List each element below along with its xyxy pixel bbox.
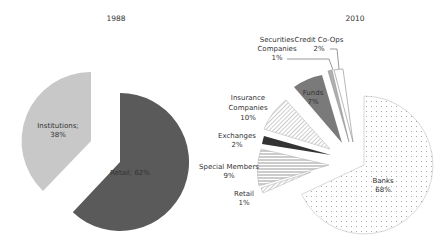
label-2010-insurance-2: Companies: [228, 104, 267, 112]
chart-1988-title: 1988: [106, 14, 125, 23]
label-2010-exchanges-2: 2%: [231, 141, 242, 149]
label-2010-funds-1: Funds: [303, 89, 324, 97]
label-2010-retail-1: Retail: [234, 190, 254, 198]
label-2010-banks-1: Banks: [372, 177, 394, 185]
chart-2010-title: 2010: [345, 14, 364, 23]
label-2010-special-1: Special Members: [199, 163, 259, 171]
label-1988-institutions-2: 38%: [50, 131, 66, 139]
label-2010-insurance-1: Insurance: [231, 94, 265, 102]
label-1988-institutions-1: Institutions;: [37, 122, 78, 130]
label-1988-retail: Retail; 62%: [110, 169, 150, 177]
label-2010-securities-3: 1%: [271, 54, 282, 62]
charts-canvas: 1988 Retail; 62% Institutions; 38% 2010 …: [0, 0, 448, 250]
slice-2010-special-members: [257, 149, 329, 186]
label-2010-exchanges-1: Exchanges: [218, 132, 256, 140]
label-2010-credit-2: 2%: [313, 45, 324, 53]
label-2010-insurance-3: 10%: [240, 114, 256, 122]
label-2010-securities-2: Companies: [257, 45, 296, 53]
label-2010-securities-1: Securities: [260, 36, 295, 44]
label-2010-retail-2: 1%: [238, 199, 249, 207]
label-2010-banks-2: 68%: [375, 186, 391, 194]
label-2010-special-2: 9%: [223, 172, 234, 180]
leader-securities: [287, 59, 333, 70]
label-2010-credit-1: Credit Co-Ops: [295, 36, 344, 44]
label-2010-funds-2: 7%: [307, 98, 318, 106]
